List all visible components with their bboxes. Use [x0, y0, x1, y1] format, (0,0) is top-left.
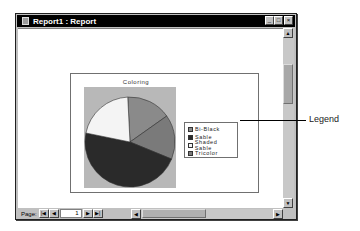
legend-swatch: [188, 151, 193, 156]
last-page-button[interactable]: ▶|: [93, 209, 103, 218]
vertical-scrollbar[interactable]: ▲ ▼: [283, 28, 294, 208]
chart-legend: Bi-Black Sable Shaded Sable Tricolor: [184, 122, 238, 158]
maximize-button[interactable]: □: [274, 16, 283, 25]
prev-page-button[interactable]: ◀: [49, 209, 59, 218]
chart-title: Coloring: [71, 79, 201, 85]
scroll-down-button[interactable]: ▼: [283, 198, 293, 208]
scroll-left-button[interactable]: ◀: [131, 209, 141, 219]
page-label: Page:: [21, 211, 37, 217]
horizontal-scrollbar[interactable]: ◀ ▶: [131, 209, 283, 219]
scroll-right-button[interactable]: ▶: [273, 209, 283, 219]
legend-swatch: [188, 143, 193, 148]
report-window: Report1 : Report _ □ × Coloring Bi-Black…: [15, 13, 297, 220]
horizontal-scroll-thumb[interactable]: [142, 209, 206, 218]
close-button[interactable]: ×: [284, 16, 293, 25]
chart-frame: Coloring Bi-Black Sable Shaded Sable Tri…: [70, 73, 259, 193]
next-page-button[interactable]: ▶: [83, 209, 93, 218]
report-canvas: Coloring Bi-Black Sable Shaded Sable Tri…: [18, 28, 283, 208]
title-bar[interactable]: Report1 : Report _ □ ×: [17, 15, 295, 27]
legend-item: Shaded Sable: [188, 141, 234, 149]
callout-line: [240, 120, 306, 121]
plot-area: [84, 87, 176, 188]
page-navigation-bar: Page: |◀ ◀ 1 ▶ ▶| ◀ ▶: [18, 208, 294, 219]
legend-swatch: [188, 127, 193, 132]
callout-label: Legend: [309, 114, 339, 124]
system-menu-icon[interactable]: [22, 17, 29, 25]
window-title: Report1 : Report: [33, 17, 96, 26]
first-page-button[interactable]: |◀: [39, 209, 49, 218]
legend-item: Bi-Black: [188, 125, 234, 133]
vertical-scroll-thumb[interactable]: [283, 64, 293, 104]
pie-chart: [84, 87, 176, 188]
page-number-input[interactable]: 1: [60, 209, 82, 218]
scroll-up-button[interactable]: ▲: [283, 28, 293, 38]
minimize-button[interactable]: _: [265, 16, 274, 25]
legend-swatch: [188, 135, 193, 140]
